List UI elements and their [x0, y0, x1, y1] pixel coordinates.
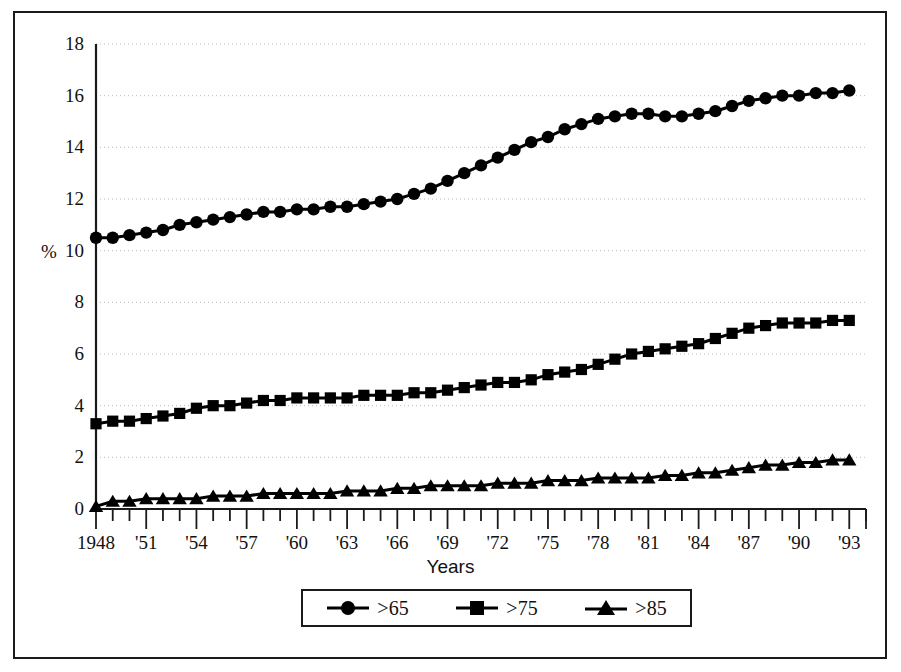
- x-axis-tick-label: 1948: [77, 533, 115, 552]
- data-point-marker: [475, 379, 486, 390]
- y-axis-tick-label: 0: [54, 499, 84, 518]
- data-point-marker: [408, 188, 420, 200]
- data-point-marker: [659, 110, 671, 122]
- data-point-marker: [375, 390, 386, 401]
- data-point-marker: [123, 229, 135, 241]
- y-axis-tick-label: 6: [54, 344, 84, 363]
- y-axis-tick-label: 14: [54, 137, 84, 156]
- x-axis-tick-label: '78: [587, 533, 609, 552]
- data-point-marker: [208, 400, 219, 411]
- data-point-marker: [140, 226, 152, 238]
- data-point-marker: [592, 113, 604, 125]
- legend-label-gt65: >65: [377, 597, 408, 620]
- circle-marker-icon: [326, 599, 370, 617]
- data-point-marker: [291, 203, 303, 215]
- data-point-marker: [826, 87, 838, 99]
- data-point-marker: [392, 390, 403, 401]
- y-axis-tick-label: 12: [54, 189, 84, 208]
- data-point-marker: [827, 315, 838, 326]
- data-point-marker: [726, 100, 738, 112]
- data-point-marker: [559, 123, 571, 135]
- x-axis-tick-label: '72: [487, 533, 509, 552]
- data-point-marker: [274, 206, 286, 218]
- data-point-marker: [643, 346, 654, 357]
- data-point-marker: [190, 216, 202, 228]
- data-point-marker: [107, 232, 119, 244]
- data-point-marker: [257, 206, 269, 218]
- data-point-marker: [458, 167, 470, 179]
- data-point-marker: [224, 400, 235, 411]
- data-point-marker: [542, 369, 553, 380]
- data-point-marker: [174, 408, 185, 419]
- y-axis-tick-label: 16: [54, 86, 84, 105]
- data-point-marker: [525, 136, 537, 148]
- data-point-marker: [191, 403, 202, 414]
- data-point-marker: [307, 203, 319, 215]
- x-axis-tick-label: '84: [687, 533, 709, 552]
- data-point-marker: [425, 182, 437, 194]
- data-point-marker: [492, 377, 503, 388]
- data-point-marker: [660, 343, 671, 354]
- data-point-marker: [509, 377, 520, 388]
- x-axis-tick-label: '69: [436, 533, 458, 552]
- y-axis-tick-label: 8: [54, 292, 84, 311]
- data-point-marker: [776, 89, 788, 101]
- data-point-marker: [442, 385, 453, 396]
- data-point-marker: [542, 131, 554, 143]
- data-point-marker: [408, 387, 419, 398]
- data-point-marker: [325, 392, 336, 403]
- x-axis-tick-label: '57: [235, 533, 257, 552]
- x-axis-tick-label: '51: [135, 533, 157, 552]
- data-point-marker: [475, 159, 487, 171]
- data-point-marker: [508, 144, 520, 156]
- y-axis-tick-label: 2: [54, 447, 84, 466]
- legend-label-gt75: >75: [506, 597, 537, 620]
- x-axis-tick-label: '75: [537, 533, 559, 552]
- x-axis-tick-label: '90: [788, 533, 810, 552]
- data-point-marker: [609, 110, 621, 122]
- data-point-marker: [593, 359, 604, 370]
- series-gt75: [90, 315, 854, 430]
- data-point-marker: [224, 211, 236, 223]
- data-point-marker: [341, 201, 353, 213]
- data-point-marker: [441, 175, 453, 187]
- legend-item-gt85[interactable]: >85: [584, 597, 666, 620]
- x-axis-tick-label: '87: [738, 533, 760, 552]
- legend-item-gt75[interactable]: >75: [455, 597, 537, 620]
- y-axis-tick-label: 4: [54, 396, 84, 415]
- data-point-marker: [341, 392, 352, 403]
- data-point-marker: [141, 413, 152, 424]
- x-axis-tick-label: '54: [185, 533, 207, 552]
- data-point-marker: [609, 354, 620, 365]
- data-point-marker: [676, 341, 687, 352]
- data-point-marker: [759, 92, 771, 104]
- data-point-marker: [844, 315, 855, 326]
- data-point-marker: [575, 118, 587, 130]
- legend-label-gt85: >85: [635, 597, 666, 620]
- data-point-marker: [559, 366, 570, 377]
- x-axis-tick-label: '81: [637, 533, 659, 552]
- data-point-marker: [358, 390, 369, 401]
- data-point-marker: [107, 416, 118, 427]
- data-point-marker: [358, 198, 370, 210]
- legend-item-gt65[interactable]: >65: [326, 597, 408, 620]
- data-point-marker: [275, 395, 286, 406]
- data-point-marker: [157, 224, 169, 236]
- data-point-marker: [374, 195, 386, 207]
- data-point-marker: [492, 151, 504, 163]
- data-point-marker: [843, 84, 855, 96]
- y-axis-tick-label: 18: [54, 34, 84, 53]
- data-point-marker: [642, 108, 654, 120]
- data-point-marker: [793, 89, 805, 101]
- data-point-marker: [240, 208, 252, 220]
- chart-legend: >65 >75 >85: [301, 589, 692, 627]
- data-point-marker: [710, 333, 721, 344]
- data-point-marker: [174, 219, 186, 231]
- x-axis-title: Years: [0, 556, 901, 578]
- y-axis-tick-label: 10: [54, 241, 84, 260]
- series-gt85: [89, 453, 857, 512]
- chart-figure: % Years >65 >75 >85 0246810121416181948'…: [0, 0, 901, 672]
- data-point-marker: [391, 193, 403, 205]
- data-point-marker: [793, 317, 804, 328]
- data-point-marker: [124, 416, 135, 427]
